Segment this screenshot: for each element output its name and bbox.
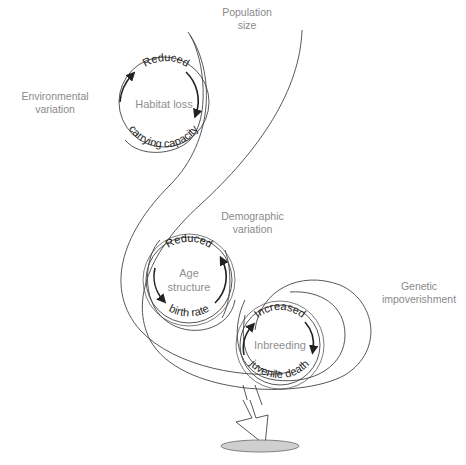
label-demographic-variation: Demographic variation (210, 210, 295, 236)
label-line: Genetic (372, 280, 466, 293)
label-environmental-variation: Environmental variation (10, 90, 100, 116)
label-line: Demographic (210, 210, 295, 223)
label-genetic-impoverishment: Genetic impoverishment (372, 280, 466, 306)
extinction-vortex-diagram: Reduced carrying capacity Reduced birth … (0, 0, 466, 465)
cycle-bottom-text: juvenile death (247, 357, 311, 380)
extinction-arrow-icon (236, 400, 268, 445)
label-line: variation (10, 103, 100, 116)
extinction-ellipse (221, 440, 299, 452)
cycle-center-inbreeding: Inbreeding (245, 338, 315, 352)
cycle-bottom-text: carrying capacity (127, 122, 201, 149)
label-line: Population (212, 6, 282, 19)
cycle-bottom-text: birth rate (167, 302, 210, 319)
label-line: structure (150, 280, 228, 294)
label-line: variation (210, 223, 295, 236)
cycle-center-age-structure: Age structure (150, 266, 228, 294)
cycle-top-text: Reduced (140, 51, 191, 69)
label-line: impoverishment (372, 293, 466, 306)
label-line: size (212, 19, 282, 32)
label-population-size: Population size (212, 6, 282, 32)
label-line: Age (150, 266, 228, 280)
cycle-center-habitat-loss: Habitat loss (124, 97, 204, 111)
label-line: Environmental (10, 90, 100, 103)
cycle-top-text: Reduced (163, 232, 214, 250)
